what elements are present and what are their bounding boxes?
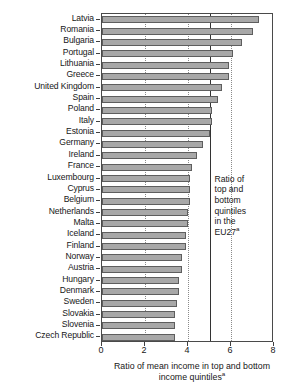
- bar: [102, 84, 222, 91]
- y-axis-tick: [96, 291, 100, 292]
- category-label: Sweden: [0, 297, 94, 306]
- bar: [102, 62, 229, 69]
- x-axis-tick-label: 8: [263, 345, 283, 355]
- category-label: France: [0, 161, 94, 170]
- y-axis-tick: [96, 166, 100, 167]
- y-axis-tick: [96, 109, 100, 110]
- category-label: Luxembourg: [0, 173, 94, 182]
- y-axis-tick: [96, 325, 100, 326]
- category-label: Malta: [0, 218, 94, 227]
- y-axis-tick: [96, 314, 100, 315]
- category-label: Belgium: [0, 195, 94, 204]
- y-axis-tick: [96, 280, 100, 281]
- bar: [102, 311, 175, 318]
- income-quintile-ratio-chart: LatviaRomaniaBulgariaPortugalLithuaniaGr…: [0, 0, 294, 391]
- category-label: Norway: [0, 252, 94, 261]
- category-label: Italy: [0, 116, 94, 125]
- category-label: Bulgaria: [0, 36, 94, 45]
- bar: [102, 209, 188, 216]
- y-axis-tick: [96, 155, 100, 156]
- y-axis-tick: [96, 64, 100, 65]
- x-axis-tick-labels: 02468: [101, 345, 273, 357]
- y-axis-tick: [96, 53, 100, 54]
- bar: [102, 50, 233, 57]
- y-axis-tick: [96, 30, 100, 31]
- category-label: Iceland: [0, 229, 94, 238]
- x-axis-tick-label: 6: [220, 345, 240, 355]
- y-axis-tick: [96, 189, 100, 190]
- annotation-line-1: Ratio of: [215, 174, 245, 184]
- y-axis-tick: [96, 98, 100, 99]
- y-axis-tick: [96, 132, 100, 133]
- bar: [102, 288, 179, 295]
- bar: [102, 107, 212, 114]
- category-label: Denmark: [0, 286, 94, 295]
- annotation-line-4: quintiles: [215, 206, 247, 216]
- bar: [102, 16, 259, 23]
- category-label: Hungary: [0, 275, 94, 284]
- x-axis-tick-label: 0: [91, 345, 111, 355]
- category-label: Slovenia: [0, 320, 94, 329]
- y-axis-tick: [96, 302, 100, 303]
- y-axis-tick: [96, 87, 100, 88]
- annotation-line-2: top and: [215, 184, 244, 194]
- bar: [102, 300, 177, 307]
- y-axis-tick: [96, 143, 100, 144]
- annotation-line-3: bottom: [215, 195, 241, 205]
- y-axis-tick: [96, 268, 100, 269]
- annotation-superscript: a: [236, 225, 239, 232]
- bar: [102, 186, 190, 193]
- category-label: Estonia: [0, 127, 94, 136]
- y-axis-tick: [96, 257, 100, 258]
- bar: [102, 175, 190, 182]
- bar: [102, 254, 182, 261]
- bar: [102, 322, 175, 329]
- bar: [102, 96, 218, 103]
- bar: [102, 243, 186, 250]
- x-axis-tick-label: 4: [177, 345, 197, 355]
- x-axis-title-superscript: a: [222, 370, 225, 377]
- x-axis-tick-label: 2: [134, 345, 154, 355]
- eu27-reference-annotation: Ratio of top and bottom quintiles in the…: [215, 174, 267, 238]
- bar: [102, 73, 229, 80]
- category-label: Poland: [0, 104, 94, 113]
- category-label: Finland: [0, 241, 94, 250]
- bar: [102, 164, 192, 171]
- category-label: United Kingdom: [0, 82, 94, 91]
- bar: [102, 266, 182, 273]
- bar: [102, 130, 210, 137]
- y-axis-tick: [96, 336, 100, 337]
- y-axis-tick: [96, 75, 100, 76]
- y-axis-tick: [96, 178, 100, 179]
- category-label: Greece: [0, 70, 94, 79]
- bar: [102, 141, 203, 148]
- y-axis-tick: [96, 234, 100, 235]
- category-label: Ireland: [0, 150, 94, 159]
- bar: [102, 334, 175, 341]
- bar: [102, 220, 188, 227]
- y-axis-tick: [96, 246, 100, 247]
- category-label: Portugal: [0, 48, 94, 57]
- category-label: Slovakia: [0, 309, 94, 318]
- y-axis-tick: [96, 212, 100, 213]
- category-label: Netherlands: [0, 207, 94, 216]
- bar: [102, 232, 186, 239]
- bar: [102, 277, 179, 284]
- y-axis-tick: [96, 121, 100, 122]
- bar: [102, 28, 253, 35]
- category-label: Lithuania: [0, 59, 94, 68]
- y-axis-tick: [96, 223, 100, 224]
- category-label: Germany: [0, 138, 94, 147]
- category-label-column: LatviaRomaniaBulgariaPortugalLithuaniaGr…: [0, 13, 94, 342]
- category-label: Spain: [0, 93, 94, 102]
- category-label: Latvia: [0, 14, 94, 23]
- category-label: Romania: [0, 25, 94, 34]
- bar: [102, 198, 190, 205]
- x-axis-title-line-1: Ratio of mean income in top and bottom: [114, 361, 270, 371]
- y-axis-tick: [96, 41, 100, 42]
- category-label: Czech Republic: [0, 331, 94, 340]
- y-axis-tick: [96, 19, 100, 20]
- bar: [102, 118, 212, 125]
- annotation-line-5: in the: [215, 216, 236, 226]
- x-axis-title: Ratio of mean income in top and bottom i…: [92, 361, 292, 383]
